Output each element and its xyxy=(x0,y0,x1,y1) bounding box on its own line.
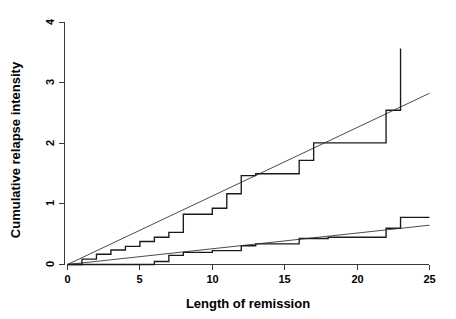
y-axis-tick-labels: 0 1 2 3 4 xyxy=(44,18,56,267)
lower-step-curve xyxy=(68,217,430,264)
y-tick-label-1: 1 xyxy=(44,200,56,206)
upper-reference-line xyxy=(68,93,430,264)
x-tick-label-5: 5 xyxy=(136,273,142,285)
x-tick-label-0: 0 xyxy=(64,273,70,285)
lower-reference-line xyxy=(68,225,430,264)
x-tick-label-20: 20 xyxy=(351,273,363,285)
y-tick-label-0: 0 xyxy=(44,261,56,267)
x-axis-title: Length of remission xyxy=(186,296,310,311)
x-tick-label-10: 10 xyxy=(206,273,218,285)
x-axis-ticks xyxy=(68,265,430,271)
y-axis-title: Cumulative relapse intensity xyxy=(8,61,23,238)
x-axis-tick-labels: 0 5 10 15 20 25 xyxy=(64,273,435,285)
upper-step-curve xyxy=(68,49,401,265)
y-axis-ticks xyxy=(59,23,65,265)
y-tick-label-3: 3 xyxy=(44,79,56,85)
x-tick-label-15: 15 xyxy=(278,273,290,285)
x-tick-label-25: 25 xyxy=(423,273,435,285)
chart-figure: 0 1 2 3 4 0 5 10 15 20 25 Length of remi xyxy=(0,0,456,319)
data-series-layer xyxy=(68,49,430,265)
cumulative-relapse-intensity-plot: 0 1 2 3 4 0 5 10 15 20 25 Length of remi xyxy=(0,0,456,319)
y-tick-label-4: 4 xyxy=(44,18,56,25)
y-tick-label-2: 2 xyxy=(44,140,56,146)
